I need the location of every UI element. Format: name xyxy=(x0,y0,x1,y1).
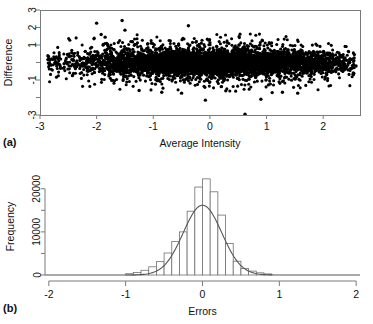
histogram-x-tick-label: -2 xyxy=(44,288,53,300)
scatter-x-tick-label: -1 xyxy=(149,120,158,132)
histogram-bar xyxy=(172,241,180,275)
histogram-bar xyxy=(210,192,218,275)
scatter-x-tick-label: -2 xyxy=(92,120,101,132)
scatter-x-axis: -3-2-1012 xyxy=(35,115,326,132)
scatter-plot-svg: -3-1123Difference-3-2-1012Average Intens… xyxy=(0,0,373,160)
scatter-x-tick-label: 1 xyxy=(264,120,270,132)
scatter-x-tick-label: 2 xyxy=(320,120,326,132)
scatter-x-axis-title: Average Intensity xyxy=(160,137,242,149)
histogram-y-tick-label: 20000 xyxy=(32,174,43,202)
scatter-x-tick-label: -3 xyxy=(35,120,44,132)
histogram-bar xyxy=(241,269,249,275)
scatter-y-tick-label: 2 xyxy=(27,24,38,30)
histogram-y-tick-label: 10000 xyxy=(32,218,43,246)
scatter-x-tick-label: 0 xyxy=(207,120,213,132)
figure-container: -3-1123Difference-3-2-1012Average Intens… xyxy=(0,0,373,324)
histogram-x-axis: -2-1012 xyxy=(44,281,359,300)
panel-b-tag: (b) xyxy=(3,302,17,314)
histogram-bars xyxy=(126,179,272,275)
panel-a-tag: (a) xyxy=(3,136,16,148)
histogram-y-axis: 01000020000 xyxy=(32,174,46,277)
histogram-bar xyxy=(233,261,241,275)
histogram-bar xyxy=(203,179,211,275)
histogram-bar xyxy=(218,215,226,275)
panel-b-histogram: 01000020000Frequency-2-1012Errors xyxy=(0,160,373,324)
scatter-y-tick-label: -3 xyxy=(27,110,38,119)
histogram-x-tick-label: -1 xyxy=(121,288,130,300)
histogram-x-tick-label: 0 xyxy=(200,288,206,300)
histogram-x-tick-label: 1 xyxy=(276,288,282,300)
histogram-y-tick-label: 0 xyxy=(32,272,43,278)
scatter-y-axis-title: Difference xyxy=(2,39,14,87)
histogram-x-axis-title: Errors xyxy=(188,305,217,317)
scatter-points xyxy=(46,19,358,116)
histogram-y-axis-title: Frequency xyxy=(4,201,16,251)
histogram-bar xyxy=(195,187,203,275)
scatter-y-tick-label: 1 xyxy=(27,42,38,48)
histogram-svg: 01000020000Frequency-2-1012Errors xyxy=(0,160,373,324)
scatter-y-axis: -3-1123 xyxy=(27,7,41,120)
scatter-y-tick-label: -1 xyxy=(27,75,38,84)
histogram-x-tick-label: 2 xyxy=(353,288,359,300)
scatter-y-tick-label: 3 xyxy=(27,7,38,13)
panel-a-scatter: -3-1123Difference-3-2-1012Average Intens… xyxy=(0,0,373,160)
